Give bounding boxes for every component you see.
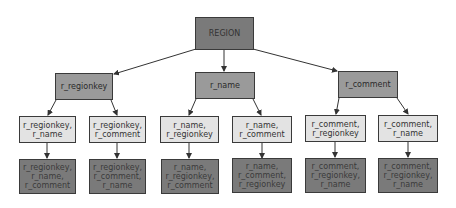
node-r-comment: r_comment xyxy=(338,71,398,98)
node-comment-regionkey-name-a: r_comment, r_regionkey, r_name xyxy=(305,158,366,193)
node-comment-name: r_comment, r_name xyxy=(378,115,438,142)
node-comment-regionkey: r_comment, r_regionkey xyxy=(305,115,366,142)
node-name-comment-regionkey: r_name, r_comment, r_regionkey xyxy=(232,158,292,193)
node-name-regionkey-comment: r_name, r_regionkey, r_comment xyxy=(161,159,219,194)
node-region: REGION xyxy=(195,17,254,50)
node-comment-regionkey-name-b: r_comment, r_regionkey, r_name xyxy=(378,158,438,193)
node-regionkey-name-comment: r_regionkey, r_name, r_comment xyxy=(19,159,76,194)
node-name-comment: r_name, r_comment xyxy=(232,116,292,143)
node-r-name: r_name xyxy=(195,72,255,99)
node-regionkey-name: r_regionkey, r_name xyxy=(19,116,76,143)
node-r-regionkey: r_regionkey xyxy=(55,73,113,100)
node-regionkey-comment: r_regionkey, r_comment xyxy=(89,116,146,143)
node-regionkey-comment-name: r_regionkey, r_comment, r_name xyxy=(89,159,146,194)
node-name-regionkey: r_name, r_regionkey xyxy=(160,116,219,143)
